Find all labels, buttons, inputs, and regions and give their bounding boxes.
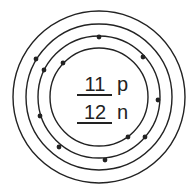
electron-shell-3 xyxy=(26,24,172,170)
neutrons-count: 12 xyxy=(77,102,113,122)
electron-dot xyxy=(126,135,131,140)
electron-dot xyxy=(34,57,39,62)
neutrons-unit: n xyxy=(117,102,128,122)
electron-dot xyxy=(143,135,148,140)
electron-shell-2 xyxy=(38,36,160,158)
electron-dot xyxy=(61,61,66,66)
electron-dot xyxy=(141,55,146,60)
protons-unit: p xyxy=(117,74,128,94)
electron-dot xyxy=(103,158,108,163)
electron-dot xyxy=(156,98,161,103)
electron-dot xyxy=(42,68,47,73)
bohr-diagram xyxy=(0,0,195,194)
electron-dot xyxy=(57,145,62,150)
protons-count: 11 xyxy=(77,74,113,94)
electron-dot xyxy=(97,35,102,40)
electron-dot xyxy=(38,114,43,119)
